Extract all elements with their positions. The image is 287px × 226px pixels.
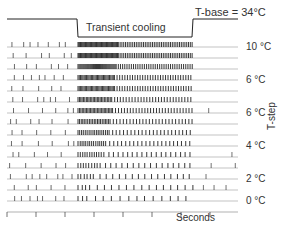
raster-figure: T-base = 34°C Transient cooling T-step S… bbox=[0, 0, 287, 226]
cooling-label: Transient cooling bbox=[86, 21, 166, 33]
step-label: 6 °C bbox=[246, 107, 266, 118]
step-label: 0 °C bbox=[246, 195, 266, 206]
step-label: 6 °C bbox=[246, 74, 266, 85]
y-axis-label: T-step bbox=[266, 102, 277, 130]
tbase-label: T-base = 34°C bbox=[195, 6, 266, 18]
raster-plot bbox=[0, 0, 287, 226]
step-label: 4 °C bbox=[246, 140, 266, 151]
step-label: 2 °C bbox=[246, 173, 266, 184]
step-label: 10 °C bbox=[246, 41, 271, 52]
x-axis-label: Seconds bbox=[176, 212, 215, 223]
